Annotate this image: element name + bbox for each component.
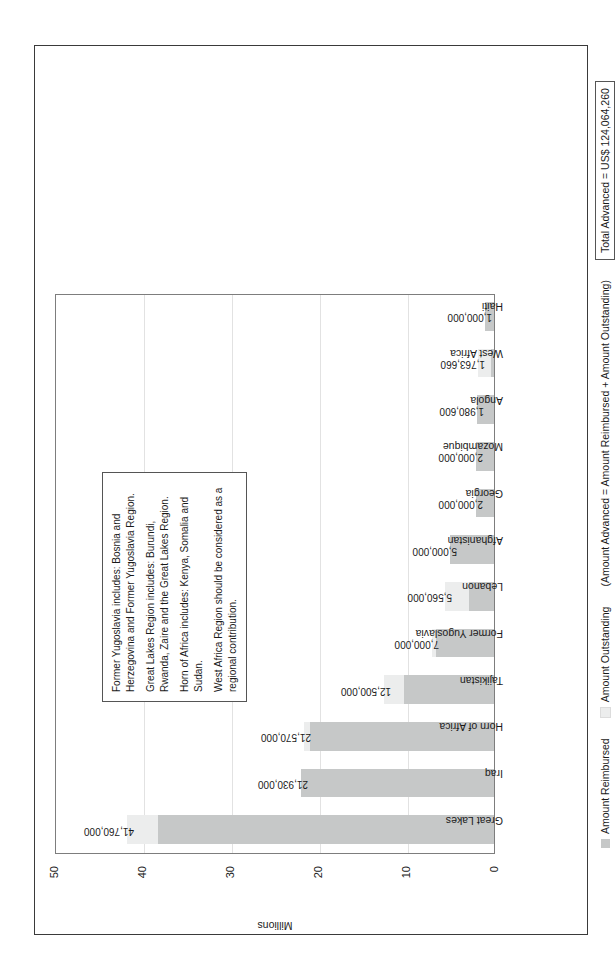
total-advanced-box: Total Advanced = US$ 124,064,260 <box>595 81 615 260</box>
legend-swatch-reimbursed <box>601 839 610 848</box>
bar-value-label: 2,000,000 <box>439 499 484 510</box>
plot-area: 41,760,00021,930,00021,570,00012,500,000… <box>55 294 495 854</box>
bar-value-label: 1,980,600 <box>439 406 484 417</box>
x-axis-category-label: Lebanon <box>462 581 503 593</box>
bar-column <box>56 442 494 471</box>
legend-label-reimbursed: Amount Reimbursed <box>599 738 611 834</box>
legend-item-reimbursed: Amount Reimbursed <box>599 738 611 848</box>
bar-value-label: 21,930,000 <box>258 779 308 790</box>
legend-item-outstanding: Amount Outstanding <box>599 607 611 719</box>
chart-legend: Amount Reimbursed Amount Outstanding (Am… <box>595 81 615 848</box>
bar-column <box>56 395 494 424</box>
note-line: Horn of Africa includes: Kenya, Somalia … <box>178 482 205 692</box>
x-axis-category-label: Former Yugoslavia <box>416 628 503 640</box>
bar-value-label: 1,000,000 <box>448 312 493 323</box>
chart-canvas: Millions 41,760,00021,930,00021,570,0001… <box>35 46 589 936</box>
y-axis-title: Millions <box>257 920 292 932</box>
x-axis-category-label: Great Lakes <box>446 815 503 827</box>
y-axis-tick: 50 <box>49 866 60 906</box>
bar-value-label: 7,000,000 <box>395 639 440 650</box>
y-axis-tick: 20 <box>313 866 324 906</box>
y-axis-tick: 40 <box>137 866 148 906</box>
bar-segment-reimbursed <box>158 815 494 844</box>
bar-value-label: 1,763,660 <box>441 359 486 370</box>
y-axis-tick: 0 <box>489 866 500 906</box>
x-axis-category-label: Georgia <box>466 488 503 500</box>
bar-segment-reimbursed <box>301 769 494 798</box>
bar-column <box>56 349 494 378</box>
x-axis-category-label: Afghanistan <box>448 535 503 547</box>
bar-value-label: 21,570,000 <box>261 732 311 743</box>
bar-column <box>56 302 494 331</box>
bar-value-label: 5,560,000 <box>408 592 453 603</box>
note-line: West Africa Region should be considered … <box>212 482 239 692</box>
legend-label-outstanding: Amount Outstanding <box>599 607 611 703</box>
legend-swatch-outstanding <box>600 707 611 718</box>
y-axis-tick: 30 <box>225 866 236 906</box>
x-axis-category-label: West Africa <box>450 348 503 360</box>
note-line: Great Lakes Region includes: Burundi, Rw… <box>144 482 171 692</box>
bar-value-label: 12,500,000 <box>341 686 391 697</box>
x-axis-category-label: Tajikistan <box>460 675 503 687</box>
rotated-chart-stage: Millions 41,760,00021,930,00021,570,0001… <box>35 46 589 936</box>
notes-box: Former Yugoslavia includes: Bosnia and H… <box>102 472 247 702</box>
bar-value-label: 5,000,000 <box>413 546 458 557</box>
bar-value-label: 2,000,000 <box>439 452 484 463</box>
x-axis-category-label: Haiti <box>482 301 503 313</box>
legend-formula: (Amount Advanced = Amount Reimbursed + A… <box>599 280 611 586</box>
x-axis-category-label: Iraq <box>485 768 503 780</box>
x-axis-category-label: Mozambique <box>443 441 503 453</box>
x-axis-category-label: Angola <box>470 395 503 407</box>
bar-value-label: 41,760,000 <box>83 826 133 837</box>
x-axis-category-label: Horn of Africa <box>439 721 503 733</box>
note-line: Former Yugoslavia includes: Bosnia and H… <box>110 482 137 692</box>
page-frame: Millions 41,760,00021,930,00021,570,0001… <box>34 45 588 935</box>
y-axis-tick: 10 <box>401 866 412 906</box>
